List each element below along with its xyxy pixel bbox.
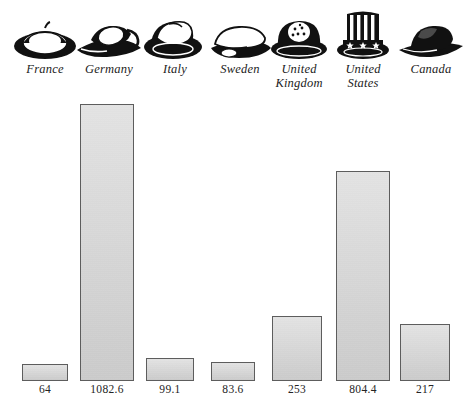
value-label-row: 64 1082.6 99.1 83.6 253 804.4 217 xyxy=(0,383,472,407)
value-label-france: 64 xyxy=(15,383,75,395)
hat-illustration-row xyxy=(0,0,472,62)
category-label-united-kingdom: United Kingdom xyxy=(263,62,335,90)
hat-cell-france xyxy=(8,0,82,62)
hat-cell-united-kingdom xyxy=(268,0,330,62)
category-label-line: United xyxy=(263,62,335,76)
category-label-row: France Germany Italy Sweden United Kingd… xyxy=(0,62,472,102)
bar-sweden xyxy=(211,362,255,381)
uncle-sam-top-hat-icon xyxy=(334,10,392,62)
value-label-germany: 1082.6 xyxy=(77,383,137,395)
category-label-canada: Canada xyxy=(396,62,466,76)
category-label-line: Germany xyxy=(69,62,149,76)
hat-cell-sweden xyxy=(206,0,276,62)
value-label-italy: 99.1 xyxy=(140,383,200,395)
fedora-hat-icon xyxy=(141,16,209,62)
value-label-canada: 217 xyxy=(395,383,455,395)
value-label-united-kingdom: 253 xyxy=(267,383,327,395)
value-label-united-states: 804.4 xyxy=(333,383,393,395)
bar-canada xyxy=(400,324,450,381)
bar-united-kingdom xyxy=(272,316,322,381)
bowler-hat-icon xyxy=(269,14,329,62)
category-label-line: United xyxy=(330,62,396,76)
plot-area xyxy=(0,102,472,381)
category-label-united-states: United States xyxy=(330,62,396,90)
flat-cap-hat-icon xyxy=(207,16,275,62)
tyrolean-hat-icon xyxy=(73,16,145,62)
hat-cell-germany xyxy=(72,0,146,62)
hat-cell-united-states xyxy=(332,0,394,62)
wide-brim-hat-icon xyxy=(397,18,465,62)
value-label-sweden: 83.6 xyxy=(203,383,263,395)
hat-bar-chart: France Germany Italy Sweden United Kingd… xyxy=(0,0,472,415)
bar-italy xyxy=(146,358,194,381)
beret-hat-icon xyxy=(10,16,80,62)
hat-cell-canada xyxy=(396,0,466,62)
category-label-germany: Germany xyxy=(69,62,149,76)
bar-france xyxy=(22,364,68,381)
bar-united-states xyxy=(336,171,390,381)
hat-cell-italy xyxy=(140,0,210,62)
category-label-line: Canada xyxy=(396,62,466,76)
category-label-line: States xyxy=(330,76,396,90)
category-label-line: Kingdom xyxy=(263,76,335,90)
bar-germany xyxy=(80,104,134,381)
